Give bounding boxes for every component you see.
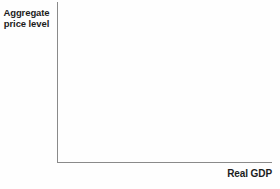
y-axis-label-line1: Aggregate (3, 7, 49, 18)
y-axis-line (57, 2, 58, 163)
y-axis-label: Aggregate price level (1, 7, 52, 29)
y-axis-label-line2: price level (4, 18, 49, 29)
x-axis-line (57, 162, 272, 163)
x-axis-label: Real GDP (227, 168, 272, 179)
blank-supply-demand-axes: Aggregate price level Real GDP (0, 0, 280, 189)
